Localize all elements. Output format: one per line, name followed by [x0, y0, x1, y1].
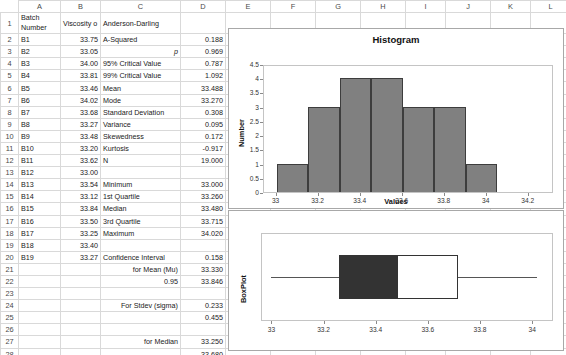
row-header-13[interactable]: 13: [1, 167, 19, 179]
cell-d7[interactable]: 33.270: [181, 94, 226, 106]
cell-a4[interactable]: B3: [19, 58, 61, 70]
cell-b8[interactable]: 33.68: [61, 106, 101, 118]
row-header-16[interactable]: 16: [1, 203, 19, 215]
row-header-9[interactable]: 9: [1, 118, 19, 130]
cell-b12[interactable]: 33.62: [61, 155, 101, 167]
cell-d4[interactable]: 0.787: [181, 58, 226, 70]
cell-d28[interactable]: 33.680: [181, 348, 226, 355]
cell-c13[interactable]: [101, 167, 181, 179]
cell-a24[interactable]: [19, 300, 61, 312]
cell-c23[interactable]: [101, 288, 181, 300]
cell-b9[interactable]: 33.27: [61, 118, 101, 130]
cell-b4[interactable]: 34.00: [61, 58, 101, 70]
row-header-17[interactable]: 17: [1, 215, 19, 227]
row-header-25[interactable]: 25: [1, 312, 19, 324]
cell-b5[interactable]: 33.81: [61, 70, 101, 82]
column-header-a[interactable]: A: [19, 1, 61, 13]
cell-d23[interactable]: [181, 288, 226, 300]
cell-b28[interactable]: [61, 348, 101, 355]
cell-a10[interactable]: B9: [19, 130, 61, 142]
cell-b15[interactable]: 33.12: [61, 191, 101, 203]
column-header-row[interactable]: ABCDEFGHIJKLM: [1, 1, 566, 13]
cell-a23[interactable]: [19, 288, 61, 300]
cell-d1[interactable]: [181, 13, 226, 34]
cell-c6[interactable]: Mean: [101, 82, 181, 94]
cell-d15[interactable]: 33.260: [181, 191, 226, 203]
cell-a17[interactable]: B16: [19, 215, 61, 227]
cell-c2[interactable]: A-Squared: [101, 34, 181, 46]
row-header-8[interactable]: 8: [1, 106, 19, 118]
cell-d24[interactable]: 0.233: [181, 300, 226, 312]
row-header-12[interactable]: 12: [1, 155, 19, 167]
column-header-g[interactable]: G: [316, 1, 361, 13]
cell-a9[interactable]: B8: [19, 118, 61, 130]
cell-d22[interactable]: 33.846: [181, 275, 226, 287]
cell-c28[interactable]: [101, 348, 181, 355]
cell-a2[interactable]: B1: [19, 34, 61, 46]
cell-a8[interactable]: B7: [19, 106, 61, 118]
cell-c12[interactable]: N: [101, 155, 181, 167]
cell-b11[interactable]: 33.20: [61, 142, 101, 154]
cell-a28[interactable]: [19, 348, 61, 355]
cell-a14[interactable]: B13: [19, 179, 61, 191]
column-header-i[interactable]: I: [406, 1, 446, 13]
cell-a15[interactable]: B14: [19, 191, 61, 203]
cell-d6[interactable]: 33.488: [181, 82, 226, 94]
cell-d17[interactable]: 33.715: [181, 215, 226, 227]
row-header-11[interactable]: 11: [1, 142, 19, 154]
column-header-f[interactable]: F: [271, 1, 316, 13]
cell-d21[interactable]: 33.330: [181, 263, 226, 275]
cell-d25[interactable]: 0.455: [181, 312, 226, 324]
cell-a16[interactable]: B15: [19, 203, 61, 215]
cell-b23[interactable]: [61, 288, 101, 300]
cell-c11[interactable]: Kurtosis: [101, 142, 181, 154]
row-header-22[interactable]: 22: [1, 275, 19, 287]
cell-c19[interactable]: [101, 239, 181, 251]
cell-a5[interactable]: B4: [19, 70, 61, 82]
cell-b21[interactable]: [61, 263, 101, 275]
row-header-14[interactable]: 14: [1, 179, 19, 191]
cell-c22[interactable]: 0.95: [101, 275, 181, 287]
row-header-28[interactable]: 28: [1, 348, 19, 355]
cell-b14[interactable]: 33.54: [61, 179, 101, 191]
column-header-d[interactable]: D: [181, 1, 226, 13]
cell-b16[interactable]: 33.84: [61, 203, 101, 215]
cell-b20[interactable]: 33.27: [61, 251, 101, 263]
cell-d8[interactable]: 0.308: [181, 106, 226, 118]
cell-c3[interactable]: p: [101, 46, 181, 58]
row-header-26[interactable]: 26: [1, 324, 19, 336]
cell-d26[interactable]: [181, 324, 226, 336]
cell-a27[interactable]: [19, 336, 61, 348]
cell-a1[interactable]: BatchNumber: [19, 13, 61, 34]
column-header-c[interactable]: C: [101, 1, 181, 13]
cell-c25[interactable]: [101, 312, 181, 324]
cell-c9[interactable]: Variance: [101, 118, 181, 130]
cell-b1[interactable]: Viscosity o: [61, 13, 101, 34]
row-header-7[interactable]: 7: [1, 94, 19, 106]
cell-a26[interactable]: [19, 324, 61, 336]
cell-a20[interactable]: B19: [19, 251, 61, 263]
row-header-5[interactable]: 5: [1, 70, 19, 82]
cell-a3[interactable]: B2: [19, 46, 61, 58]
cell-c16[interactable]: Median: [101, 203, 181, 215]
cell-c5[interactable]: 99% Critical Value: [101, 70, 181, 82]
cell-c8[interactable]: Standard Deviation: [101, 106, 181, 118]
cell-c27[interactable]: for Median: [101, 336, 181, 348]
cell-c7[interactable]: Mode: [101, 94, 181, 106]
cell-d16[interactable]: 33.480: [181, 203, 226, 215]
cell-a25[interactable]: [19, 312, 61, 324]
column-header-e[interactable]: E: [226, 1, 271, 13]
cell-b2[interactable]: 33.75: [61, 34, 101, 46]
row-header-24[interactable]: 24: [1, 300, 19, 312]
cell-b24[interactable]: [61, 300, 101, 312]
cell-a7[interactable]: B6: [19, 94, 61, 106]
row-header-6[interactable]: 6: [1, 82, 19, 94]
cell-d11[interactable]: -0.917: [181, 142, 226, 154]
cell-b18[interactable]: 33.25: [61, 227, 101, 239]
row-header-27[interactable]: 27: [1, 336, 19, 348]
cell-c24[interactable]: For Stdev (sigma): [101, 300, 181, 312]
cell-d12[interactable]: 19.000: [181, 155, 226, 167]
cell-c10[interactable]: Skewedness: [101, 130, 181, 142]
cell-d13[interactable]: [181, 167, 226, 179]
cell-d19[interactable]: [181, 239, 226, 251]
